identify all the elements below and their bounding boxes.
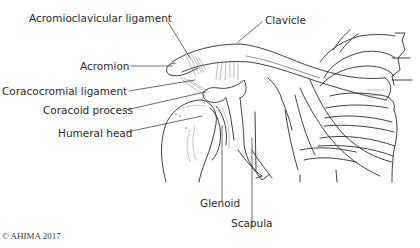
glenoid-structure [210,106,229,160]
coracoid-process-bone [203,80,246,103]
label-coracoid-process: Coracoid process [43,104,133,116]
leader-acromioclavicular-ligament [168,22,190,58]
label-acromion: Acromion [80,60,130,72]
label-coracocromial-ligament: Coracocromial ligament [2,85,127,97]
label-glenoid: Glenoid [200,197,240,209]
acromion-bone [167,63,198,76]
label-acromioclavicular-ligament: Acromioclavicular ligament [29,12,172,24]
scapula-bone [226,78,292,180]
copyright-notice: © AHIMA 2017 [2,231,61,241]
leader-lines [126,22,262,226]
label-clavicle: Clavicle [265,14,306,26]
leader-clavicle [238,22,262,42]
shoulder-illustration [0,0,420,248]
rib-cage [285,30,412,182]
label-humeral-head: Humeral head [58,127,132,139]
humerus-bone [162,100,217,182]
leader-coracocromial-ligament [129,80,195,91]
label-scapula: Scapula [231,217,273,229]
shoulder-anatomy-diagram: Acromioclavicular ligament Clavicle Acro… [0,0,420,248]
